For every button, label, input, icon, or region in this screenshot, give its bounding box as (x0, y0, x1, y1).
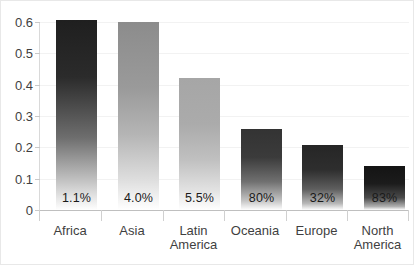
category-separator-1 (101, 210, 102, 221)
bar-chart: 0.6 0.5 0.4 0.3 0.2 0.1 0 1.1% 4.0% 5.5%… (0, 0, 414, 265)
category-label-africa-line-0: Africa (39, 224, 101, 238)
bar-latin-america: 5.5% (179, 78, 220, 210)
category-separator-5 (347, 210, 348, 221)
category-separator-4 (286, 210, 287, 221)
bar-value-asia: 4.0% (118, 192, 159, 205)
y-axis-label-0.6: 0.6 (1, 16, 33, 29)
category-separator-3 (224, 210, 225, 221)
category-label-north-america-line-1: America (347, 238, 408, 252)
category-label-latin-america-line-1: America (163, 238, 224, 252)
category-label-latin-america: Latin America (163, 224, 224, 252)
category-label-europe: Europe (286, 224, 347, 238)
category-separator-0 (39, 210, 40, 221)
bar-value-europe: 32% (302, 192, 343, 205)
bar-fill-africa (56, 20, 97, 210)
category-separator-2 (163, 210, 164, 221)
category-label-oceania-line-0: Oceania (224, 224, 286, 238)
category-label-europe-line-0: Europe (286, 224, 347, 238)
bar-north-america: 83% (364, 166, 405, 210)
y-axis-label-0.3: 0.3 (1, 110, 33, 123)
y-axis-label-0.4: 0.4 (1, 79, 33, 92)
y-tick-mark-0.3 (35, 116, 40, 117)
category-label-north-america: North America (347, 224, 408, 252)
y-axis-label-0.2: 0.2 (1, 141, 33, 154)
bar-oceania: 80% (241, 129, 282, 210)
y-tick-mark-0.1 (35, 179, 40, 180)
bar-europe: 32% (302, 145, 343, 210)
bar-value-latin-america: 5.5% (179, 192, 220, 205)
category-label-asia-line-0: Asia (101, 224, 163, 238)
category-separator-6 (408, 210, 409, 221)
bar-africa: 1.1% (56, 20, 97, 210)
category-label-oceania: Oceania (224, 224, 286, 238)
bar-value-africa: 1.1% (56, 192, 97, 205)
bar-value-oceania: 80% (241, 192, 282, 205)
bar-fill-asia (118, 22, 159, 210)
bar-value-north-america: 83% (364, 192, 405, 205)
y-axis-label-0.1: 0.1 (1, 173, 33, 186)
y-tick-mark-0.4 (35, 85, 40, 86)
y-tick-mark-0.5 (35, 53, 40, 54)
category-label-north-america-line-0: North (347, 224, 408, 238)
y-tick-mark-0.6 (35, 22, 40, 23)
y-tick-mark-0.2 (35, 147, 40, 148)
y-axis-label-0.5: 0.5 (1, 47, 33, 60)
bar-asia: 4.0% (118, 22, 159, 210)
category-label-latin-america-line-0: Latin (163, 224, 224, 238)
category-label-africa: Africa (39, 224, 101, 238)
category-label-asia: Asia (101, 224, 163, 238)
y-axis-label-0: 0 (1, 204, 33, 217)
